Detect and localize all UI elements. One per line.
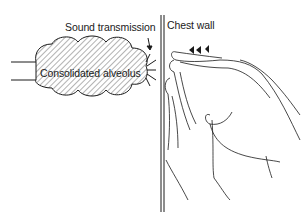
arrow-icon (147, 38, 152, 50)
hands-illustration (165, 52, 300, 200)
vibration-arrows-icon (189, 45, 209, 54)
consolidated-alveolus-label: Consolidated alveolus (40, 67, 141, 79)
consolidated-alveolus-shape (36, 36, 148, 96)
illustration (0, 0, 308, 220)
sound-transmission-label: Sound transmission (65, 21, 155, 33)
chest-wall-label: Chest wall (167, 19, 214, 31)
sound-wave-icon (146, 54, 156, 86)
chest-wall-line (161, 15, 164, 212)
bronchiole-lines (11, 62, 36, 80)
